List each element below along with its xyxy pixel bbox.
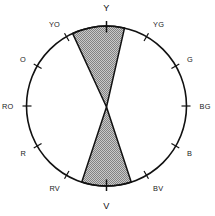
shaded-wedge-lower	[82, 107, 131, 186]
shaded-wedge-group	[73, 26, 132, 186]
hue-label-yo: YO	[49, 20, 60, 29]
hue-label-rv: RV	[49, 184, 60, 193]
hue-label-o: O	[20, 55, 26, 64]
hue-label-ro: RO	[2, 102, 14, 111]
hue-label-bv: BV	[153, 184, 163, 193]
hue-label-y: Y	[103, 3, 109, 13]
hue-label-g: G	[187, 55, 193, 64]
hue-label-b: B	[187, 149, 192, 158]
color-wheel-canvas: YYGGBGBBVVRVRROOYO	[0, 0, 215, 216]
shaded-wedge-upper	[73, 26, 125, 107]
hue-label-r: R	[20, 149, 26, 158]
color-wheel-diagram: YYGGBGBBVVRVRROOYO	[0, 0, 215, 216]
hue-label-yg: YG	[153, 20, 164, 29]
hue-label-v: V	[103, 201, 110, 211]
hue-label-bg: BG	[200, 102, 211, 111]
